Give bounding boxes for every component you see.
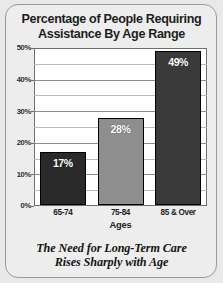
- bar-value-label-1: 28%: [99, 123, 143, 135]
- chart-card: Percentage of People Requiring Assistanc…: [0, 0, 223, 283]
- y-axis-label-30pct: 30%: [1, 107, 31, 116]
- bar-85-over: 49%: [155, 51, 201, 205]
- y-axis-tickmark-30: [31, 111, 34, 112]
- y-axis-label-10pct: 10%: [1, 170, 31, 179]
- chart-caption-line-1: The Need for Long-Term Care: [12, 242, 211, 256]
- x-axis-title: Ages: [34, 220, 207, 230]
- y-axis-label-40pct: 40%: [1, 75, 31, 84]
- bar-value-label-2: 49%: [156, 56, 200, 68]
- y-axis-tickmark-0: [31, 206, 34, 207]
- y-axis-tickmark-40: [31, 80, 34, 81]
- y-axis-tickmark-10: [31, 174, 34, 175]
- y-axis-tickmark-50: [31, 48, 34, 49]
- y-axis-label-50pct: 50%: [1, 43, 31, 52]
- x-axis-label-1: 75-84: [92, 208, 150, 217]
- y-axis-label-0pct: 0%: [1, 201, 31, 210]
- chart-caption-line-2: Rises Sharply with Age: [12, 256, 211, 270]
- bar-75-84: 28%: [98, 118, 144, 205]
- x-axis-label-0: 65-74: [34, 208, 92, 217]
- y-axis-label-20pct: 20%: [1, 138, 31, 147]
- bar-value-label-0: 17%: [41, 157, 85, 169]
- y-axis-tickmark-20: [31, 143, 34, 144]
- x-axis-label-2: 85 & Over: [149, 208, 207, 217]
- bar-65-74: 17%: [40, 152, 86, 205]
- chart-caption: The Need for Long-Term Care Rises Sharpl…: [12, 242, 211, 270]
